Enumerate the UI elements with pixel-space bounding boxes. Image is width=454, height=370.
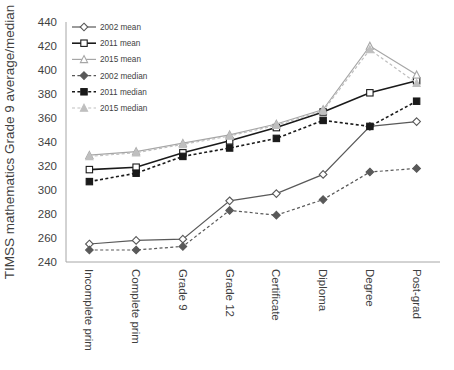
legend: 2002 mean2011 mean2015 mean2002 median20… bbox=[72, 23, 148, 113]
x-axis-category-labels: Incomplete primComplete primGrade 9Grade… bbox=[83, 269, 422, 351]
data-point-marker bbox=[226, 207, 234, 215]
line-chart: TIMSS mathematics Grade 9 average/median… bbox=[0, 0, 454, 370]
y-tick-label: 300 bbox=[38, 184, 57, 196]
data-point-marker bbox=[366, 168, 374, 176]
x-tick-label: Degree bbox=[364, 269, 376, 307]
data-point-marker bbox=[273, 135, 279, 141]
y-tick-label: 240 bbox=[38, 256, 57, 268]
data-point-marker bbox=[367, 90, 373, 96]
series-0 bbox=[86, 118, 421, 248]
y-tick-label: 400 bbox=[38, 64, 57, 76]
x-tick-label: Grade 9 bbox=[177, 269, 189, 311]
y-tick-label: 380 bbox=[38, 88, 57, 100]
y-axis-ticks: 240260280300320340360380400420440 bbox=[38, 16, 57, 268]
data-point-marker bbox=[413, 98, 419, 104]
data-point-marker bbox=[273, 190, 281, 198]
data-point-marker bbox=[81, 40, 87, 46]
legend-label: 2015 mean bbox=[100, 55, 141, 64]
data-point-marker bbox=[413, 118, 421, 126]
series-line bbox=[89, 50, 416, 157]
legend-label: 2011 median bbox=[100, 88, 147, 97]
legend-label: 2002 median bbox=[100, 72, 148, 81]
data-point-marker bbox=[81, 89, 87, 95]
y-tick-label: 320 bbox=[38, 160, 57, 172]
x-tick-label: Incomplete prim bbox=[83, 269, 95, 351]
data-point-marker bbox=[132, 246, 140, 254]
x-tick-label: Diploma bbox=[317, 269, 329, 312]
data-point-marker bbox=[80, 104, 87, 111]
x-tick-label: Certificate bbox=[270, 269, 282, 321]
y-tick-label: 340 bbox=[38, 136, 57, 148]
data-point-marker bbox=[80, 72, 88, 80]
legend-item: 2002 median bbox=[72, 72, 148, 81]
y-axis-title: TIMSS mathematics Grade 9 average/median bbox=[2, 5, 17, 280]
data-point-marker bbox=[86, 246, 94, 254]
data-point-marker bbox=[132, 237, 140, 245]
x-tick-label: Grade 12 bbox=[224, 269, 236, 317]
y-tick-label: 420 bbox=[38, 40, 57, 52]
data-point-marker bbox=[86, 166, 92, 172]
x-tick-label: Complete prim bbox=[130, 269, 142, 344]
data-point-marker bbox=[180, 153, 186, 159]
legend-item: 2011 median bbox=[72, 88, 147, 97]
data-point-marker bbox=[273, 211, 281, 219]
data-point-marker bbox=[413, 165, 421, 173]
data-point-marker bbox=[80, 23, 88, 31]
x-tick-label: Post-grad bbox=[411, 269, 423, 319]
legend-item: 2015 mean bbox=[72, 55, 141, 64]
legend-label: 2002 mean bbox=[100, 23, 141, 32]
y-tick-label: 280 bbox=[38, 208, 57, 220]
y-tick-label: 440 bbox=[38, 16, 57, 28]
y-axis-title-group: TIMSS mathematics Grade 9 average/median bbox=[2, 5, 17, 280]
data-point-marker bbox=[320, 117, 326, 123]
data-point-marker bbox=[133, 164, 139, 170]
legend-label: 2015 median bbox=[100, 104, 148, 113]
legend-item: 2015 median bbox=[72, 104, 148, 113]
legend-item: 2011 mean bbox=[72, 39, 141, 48]
series-line bbox=[89, 168, 416, 250]
data-point-marker bbox=[133, 170, 139, 176]
y-tick-label: 260 bbox=[38, 232, 57, 244]
data-point-marker bbox=[86, 178, 92, 184]
legend-item: 2002 mean bbox=[72, 23, 141, 32]
data-point-marker bbox=[319, 196, 327, 204]
chart-container: TIMSS mathematics Grade 9 average/median… bbox=[0, 0, 454, 370]
series-line bbox=[89, 122, 416, 244]
data-point-marker bbox=[367, 123, 373, 129]
y-tick-label: 360 bbox=[38, 112, 57, 124]
legend-label: 2011 mean bbox=[100, 39, 141, 48]
data-point-marker bbox=[413, 71, 420, 78]
data-point-marker bbox=[226, 145, 232, 151]
